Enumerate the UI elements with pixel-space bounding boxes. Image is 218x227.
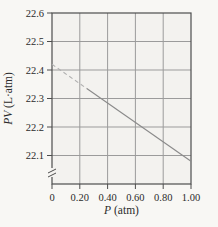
y-axis-title: PV (L·atm) (2, 72, 15, 126)
y-tick-label: 22.4 (26, 65, 45, 76)
x-tick-label: 1.00 (182, 192, 200, 203)
x-tick-label: 0.20 (71, 192, 89, 203)
y-tick-label: 22.1 (26, 150, 44, 161)
y-tick-label: 22.5 (26, 36, 44, 47)
x-tick-label: 0 (49, 192, 54, 203)
y-tick-label: 22.2 (26, 122, 44, 133)
x-tick-label: 0.80 (154, 192, 172, 203)
y-tick-label: 22.3 (26, 93, 44, 104)
x-axis-title: P (atm) (103, 204, 139, 217)
x-tick-label: 0.60 (126, 192, 144, 203)
chart-svg: 22.122.222.322.422.522.600.200.400.600.8… (0, 0, 218, 227)
x-tick-label: 0.40 (98, 192, 116, 203)
pv-vs-p-figure: 22.122.222.322.422.522.600.200.400.600.8… (0, 0, 218, 227)
y-tick-label: 22.6 (26, 8, 44, 19)
